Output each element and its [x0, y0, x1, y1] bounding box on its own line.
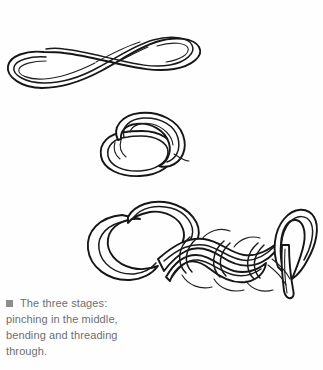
caption-block: The three stages: pinching in the middle… — [6, 295, 186, 359]
pinched-bight-drawing — [0, 16, 215, 96]
caption-line-2: pinching in the middle, — [6, 311, 186, 327]
folded-loop-drawing — [88, 104, 203, 180]
illustration-page: The three stages: pinching in the middle… — [0, 0, 323, 370]
illustration-pinched-bight — [0, 16, 215, 96]
square-bullet-icon — [6, 300, 13, 307]
illustration-braided-knot — [82, 193, 323, 301]
caption-line-1: The three stages: — [6, 295, 186, 311]
illustration-folded-loop — [88, 104, 203, 180]
caption-line-1-text: The three stages: — [20, 295, 107, 311]
caption-line-3: bending and threading — [6, 327, 186, 343]
caption-line-4: through. — [6, 343, 186, 359]
braided-knot-drawing — [82, 193, 323, 301]
